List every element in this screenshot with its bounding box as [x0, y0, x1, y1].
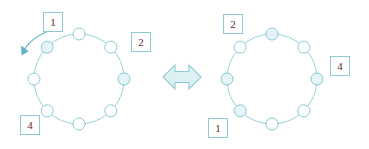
ring-node[interactable]: [105, 41, 117, 53]
ring-node[interactable]: [266, 28, 278, 40]
ring-node[interactable]: [234, 41, 246, 53]
right-ring: [221, 28, 323, 130]
rotation-arrow-head: [21, 46, 28, 56]
left-label-1[interactable]: 1: [43, 12, 63, 32]
ring-node[interactable]: [73, 118, 85, 130]
right-ring-nodes: [221, 28, 323, 130]
left-label-4[interactable]: 4: [20, 115, 40, 135]
right-label-2[interactable]: 2: [223, 14, 243, 34]
ring-node[interactable]: [73, 28, 85, 40]
ring-node[interactable]: [266, 118, 278, 130]
ring-node[interactable]: [118, 73, 130, 85]
ring-node[interactable]: [105, 105, 117, 117]
figure-root: 1 2 4 2 4 1: [0, 0, 369, 149]
ring-node[interactable]: [28, 73, 40, 85]
ring-node[interactable]: [41, 105, 53, 117]
right-label-4[interactable]: 4: [330, 56, 350, 76]
ring-node[interactable]: [298, 41, 310, 53]
ring-node[interactable]: [234, 105, 246, 117]
equivalence-arrow: [163, 65, 201, 89]
ring-node[interactable]: [311, 73, 323, 85]
ring-node[interactable]: [298, 105, 310, 117]
right-label-1[interactable]: 1: [208, 118, 228, 138]
ring-node[interactable]: [41, 41, 53, 53]
double-headed-arrow-icon: [163, 65, 201, 89]
left-ring-nodes: [28, 28, 130, 130]
ring-node[interactable]: [221, 73, 233, 85]
left-label-2[interactable]: 2: [131, 32, 151, 52]
rotation-arrow: [21, 28, 58, 56]
